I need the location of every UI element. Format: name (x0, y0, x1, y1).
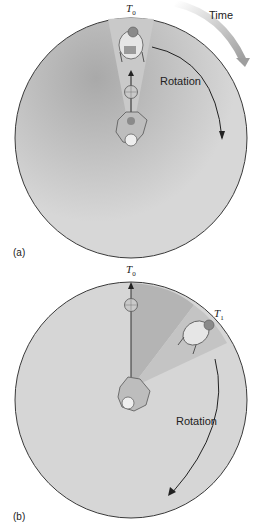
rotation-label: Rotation (160, 75, 201, 87)
marker-t0: T0 (126, 2, 136, 17)
time-label: Time (209, 9, 233, 21)
panel-label-b: (b) (13, 511, 25, 522)
basketball-icon (125, 299, 138, 312)
panel-label-a: (a) (13, 247, 25, 258)
time-arrowhead (236, 58, 250, 67)
marker-t1: T1 (214, 307, 224, 322)
rotation-label: Rotation (176, 415, 217, 427)
basketball-icon (125, 86, 138, 99)
rotating-disk-diagram-b (0, 265, 254, 530)
panel-b: T0 T1 Rotation (b) (0, 265, 254, 530)
rotating-disk-diagram-a (0, 0, 254, 265)
marker-t0: T0 (126, 263, 136, 278)
panel-a: T0 Time Rotation (a) (0, 0, 254, 265)
